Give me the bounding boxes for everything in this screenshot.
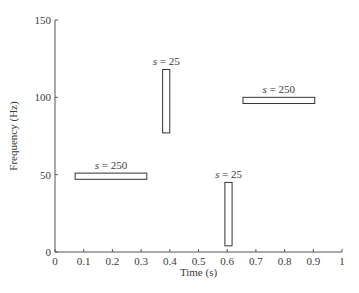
tile-annotation: s = 250: [263, 83, 296, 95]
axes: 00.10.20.30.40.50.60.70.80.91050100150: [35, 14, 345, 267]
time-frequency-chart: 00.10.20.30.40.50.60.70.80.91050100150 s…: [0, 0, 359, 293]
y-tick-label: 50: [40, 169, 52, 181]
tile-annotation: s = 25: [153, 55, 180, 67]
x-tick-label: 0.7: [249, 255, 263, 267]
x-tick-label: 0.4: [163, 255, 177, 267]
y-tick-label: 100: [35, 91, 52, 103]
tile-annotation: s = 250: [95, 159, 128, 171]
x-tick-label: 0: [52, 255, 58, 267]
y-tick-label: 0: [46, 246, 52, 258]
x-tick-label: 1: [339, 255, 345, 267]
tile-annotation: s = 25: [215, 168, 242, 180]
x-tick-label: 0.8: [278, 255, 292, 267]
x-tick-label: 0.1: [77, 255, 91, 267]
x-tick-label: 0.6: [220, 255, 234, 267]
y-tick-label: 150: [35, 14, 52, 26]
tile-1: [75, 173, 147, 179]
y-axis-label: Frequency (Hz): [7, 101, 20, 171]
x-tick-label: 0.3: [134, 255, 148, 267]
tiles: s = 250s = 25s = 250s = 25: [75, 55, 315, 245]
x-axis-label: Time (s): [180, 266, 218, 279]
tile-4: [225, 182, 232, 245]
x-tick-label: 0.9: [306, 255, 320, 267]
tile-2: [163, 69, 170, 132]
tile-3: [243, 97, 315, 103]
x-tick-label: 0.2: [106, 255, 120, 267]
